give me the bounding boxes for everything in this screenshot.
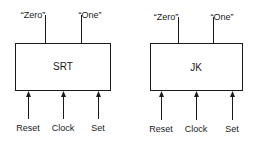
srt-title: SRT xyxy=(53,61,73,72)
jk-flip-flop: JK “Zero” “One” Reset Clock Set xyxy=(149,12,242,134)
jk-title: JK xyxy=(190,62,202,73)
jk-clock-label: Clock xyxy=(185,124,208,134)
srt-clock-arrow-icon xyxy=(61,91,66,97)
jk-clock-arrow-icon xyxy=(194,91,199,97)
srt-reset-arrow-icon xyxy=(26,91,31,97)
srt-flip-flop: SRT “Zero” “One” Reset Clock Set xyxy=(16,10,111,133)
jk-one-label: “One” xyxy=(210,12,233,22)
srt-zero-label: “Zero” xyxy=(21,10,46,20)
srt-set-label: Set xyxy=(91,123,105,133)
flip-flop-diagrams: SRT “Zero” “One” Reset Clock Set JK “Zer… xyxy=(0,0,259,142)
srt-set-arrow-icon xyxy=(96,91,101,97)
jk-set-label: Set xyxy=(225,124,239,134)
jk-reset-arrow-icon xyxy=(159,91,164,97)
jk-set-arrow-icon xyxy=(230,91,235,97)
srt-one-label: “One” xyxy=(78,10,101,20)
srt-clock-label: Clock xyxy=(52,123,75,133)
jk-zero-label: “Zero” xyxy=(154,12,179,22)
jk-reset-label: Reset xyxy=(149,124,173,134)
srt-reset-label: Reset xyxy=(16,123,40,133)
